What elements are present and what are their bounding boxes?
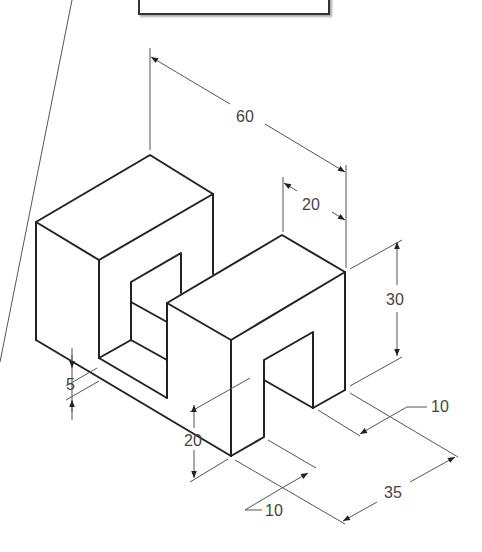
dim-60: 60: [150, 48, 346, 268]
dim-10-right: 10: [318, 393, 458, 457]
svg-text:10: 10: [431, 398, 449, 415]
left-block: [36, 155, 231, 456]
dim-20-left: 20: [184, 378, 250, 482]
dim-20-top: 20: [283, 177, 345, 232]
svg-text:60: 60: [236, 108, 254, 125]
svg-text:35: 35: [384, 484, 402, 501]
svg-text:10: 10: [265, 502, 283, 519]
isometric-drawing: 60 20 30 10 35 10 2: [0, 0, 482, 552]
svg-text:5: 5: [66, 376, 75, 393]
dim-5: 5: [0, 0, 99, 420]
svg-text:20: 20: [184, 432, 202, 449]
svg-text:20: 20: [302, 196, 320, 213]
dim-10-front: 10: [245, 440, 316, 519]
dim-30: 30: [350, 240, 404, 386]
svg-text:30: 30: [386, 291, 404, 308]
